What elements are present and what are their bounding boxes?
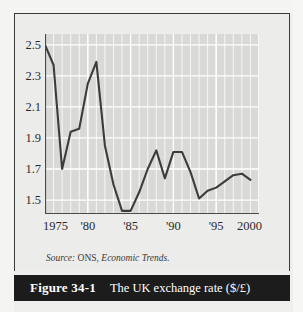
line-chart-svg [45, 34, 259, 214]
y-tick-label: 1.5 [25, 193, 41, 208]
figure-title: The UK exchange rate ($/£) [110, 281, 250, 296]
x-tick-label: '95 [209, 219, 224, 234]
scan-edge-left [0, 0, 14, 312]
figure-frame: 2.52.32.11.91.71.5 1975'80'85'90'952000 … [14, 13, 290, 271]
plot-background [45, 34, 259, 214]
scan-edge-right [293, 0, 303, 312]
source-note: Source: ONS, Economic Trends. [46, 253, 170, 263]
source-prefix: Source: [46, 253, 75, 263]
x-tick-label: '80 [80, 219, 95, 234]
x-tick-label: 1975 [43, 219, 68, 234]
x-tick-label: 2000 [237, 219, 262, 234]
y-tick-label: 1.9 [25, 130, 41, 145]
figure-caption-bar: Figure 34-1 The UK exchange rate ($/£) [14, 275, 290, 301]
y-tick-label: 2.1 [25, 99, 41, 114]
x-tick-label: '90 [166, 219, 181, 234]
source-body: ONS, [78, 253, 99, 263]
figure-number: Figure 34-1 [30, 280, 96, 296]
y-tick-label: 1.7 [25, 162, 41, 177]
x-tick-label: '85 [123, 219, 138, 234]
source-publication: Economic Trends. [101, 253, 169, 263]
scan-edge-top [0, 0, 303, 13]
figure-root: 2.52.32.11.91.71.5 1975'80'85'90'952000 … [0, 0, 303, 312]
y-tick-label: 2.3 [25, 68, 41, 83]
chart-plot-area: 2.52.32.11.91.71.5 1975'80'85'90'952000 [45, 34, 259, 214]
y-tick-label: 2.5 [25, 37, 41, 52]
